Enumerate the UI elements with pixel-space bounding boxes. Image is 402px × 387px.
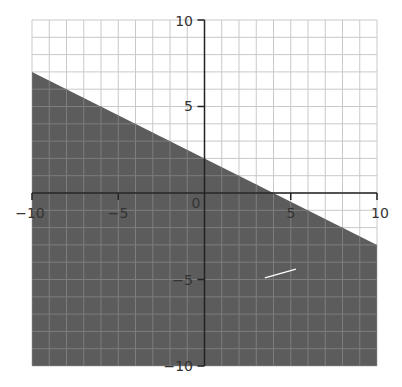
x-tick-label-5: 5 xyxy=(287,205,296,221)
y-tick-label-10: 10 xyxy=(175,13,193,29)
y-tick-label-neg10: −10 xyxy=(163,358,193,374)
x-tick-label-neg5: −5 xyxy=(108,205,129,221)
x-tick-label-neg10: −10 xyxy=(15,205,45,221)
y-tick-label-5: 5 xyxy=(184,98,193,114)
x-tick-label-10: 10 xyxy=(371,205,389,221)
coordinate-plane: −10 −5 0 5 10 10 5 −5 −10 xyxy=(0,0,402,387)
x-tick-label-zero: 0 xyxy=(192,195,201,211)
y-tick-label-neg5: −5 xyxy=(172,272,193,288)
